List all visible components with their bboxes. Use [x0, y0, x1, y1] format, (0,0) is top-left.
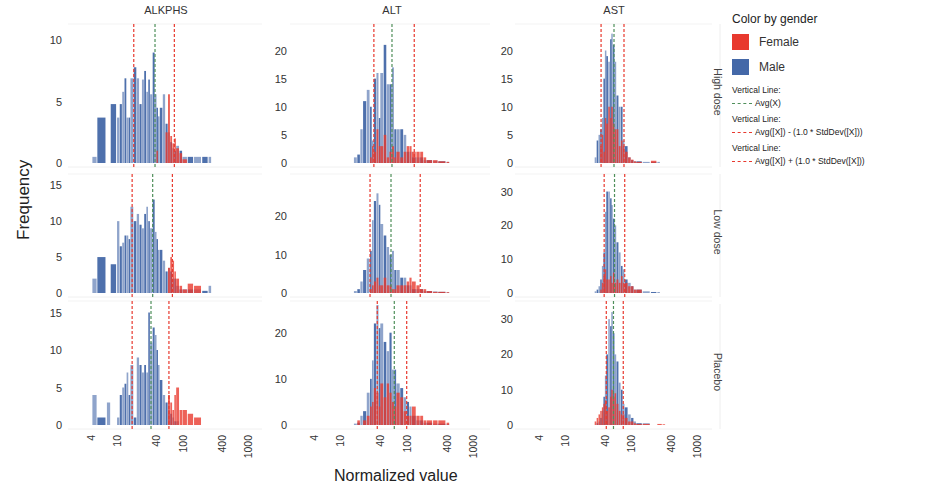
legend-label-male: Male: [759, 60, 785, 74]
refline-avg[interactable]: Avg(X): [732, 98, 932, 108]
x-tick-label: 4: [308, 435, 320, 441]
refline-plus-title: Vertical Line:: [732, 143, 932, 153]
x-tick-label: 40: [150, 435, 162, 447]
svg-text:5: 5: [56, 251, 62, 263]
svg-text:10: 10: [501, 101, 513, 113]
refline-avg-title: Vertical Line:: [732, 85, 932, 95]
dash-line-icon: [732, 103, 752, 104]
svg-text:5: 5: [56, 96, 62, 108]
legend: Color by gender Female Male Vertical Lin…: [732, 12, 932, 166]
svg-text:0: 0: [507, 157, 513, 169]
column-header: ALKPHS: [144, 4, 187, 16]
svg-text:0: 0: [281, 157, 287, 169]
svg-text:15: 15: [50, 307, 62, 319]
svg-text:15: 15: [501, 73, 513, 85]
refline-minus-sd[interactable]: Avg([X]) - (1.0 * StdDev([X])): [732, 127, 932, 137]
x-tick-label: 10: [334, 435, 346, 447]
svg-text:20: 20: [275, 45, 287, 57]
panel-ast-placebo: 0102030: [501, 301, 712, 431]
svg-text:10: 10: [50, 344, 62, 356]
refline-plus-expr: Avg([X]) + (1.0 * StdDev([X])): [755, 156, 865, 166]
svg-text:0: 0: [507, 287, 513, 299]
panel-alt-high-dose: 05101520: [275, 24, 490, 169]
x-tick-label: 1000: [467, 435, 479, 459]
x-tick-label: 400: [441, 435, 453, 453]
panel-ast-high-dose: 05101520: [501, 24, 712, 169]
column-header: ALT: [382, 4, 402, 16]
svg-text:20: 20: [275, 210, 287, 222]
panel-alt-placebo: 01020: [275, 301, 490, 431]
x-tick-label: 4: [85, 435, 97, 441]
x-tick-label: 400: [665, 435, 677, 453]
svg-text:20: 20: [275, 327, 287, 339]
svg-text:5: 5: [281, 129, 287, 141]
svg-text:10: 10: [501, 253, 513, 265]
svg-text:0: 0: [56, 157, 62, 169]
x-tick-label: 10: [559, 435, 571, 447]
refline-plus-sd[interactable]: Avg([X]) + (1.0 * StdDev([X])): [732, 156, 932, 166]
row-header: Placebo: [712, 353, 724, 391]
male-swatch: [732, 59, 749, 75]
x-tick-label: 1000: [242, 435, 254, 459]
legend-item-female[interactable]: Female: [732, 29, 932, 54]
svg-text:10: 10: [501, 384, 513, 396]
svg-text:10: 10: [275, 373, 287, 385]
female-swatch: [732, 34, 749, 50]
svg-text:0: 0: [56, 419, 62, 431]
refline-minus-title: Vertical Line:: [732, 114, 932, 124]
svg-text:0: 0: [281, 419, 287, 431]
svg-text:0: 0: [507, 419, 513, 431]
y-axis-label: Frequency: [14, 160, 34, 240]
svg-text:10: 10: [50, 215, 62, 227]
column-header: AST: [603, 4, 625, 16]
panel-ast-low-dose: 0102030: [501, 174, 712, 299]
svg-text:10: 10: [275, 249, 287, 261]
x-tick-label: 40: [599, 435, 611, 447]
svg-text:0: 0: [281, 287, 287, 299]
x-tick-label: 1000: [691, 435, 703, 459]
refline-minus-expr: Avg([X]) - (1.0 * StdDev([X])): [755, 127, 863, 137]
x-tick-label: 400: [216, 435, 228, 453]
x-tick-label: 100: [177, 435, 189, 453]
x-tick-label: 4: [533, 435, 545, 441]
dash-line-icon: [732, 161, 752, 162]
panel-alt-low-dose: 01020: [275, 174, 490, 299]
x-tick-label: 10: [111, 435, 123, 447]
panel-alkphs-high-dose: 0510: [50, 24, 262, 169]
svg-text:0: 0: [56, 287, 62, 299]
x-tick-label: 100: [401, 435, 413, 453]
svg-text:15: 15: [50, 179, 62, 191]
svg-text:5: 5: [507, 129, 513, 141]
svg-text:10: 10: [50, 34, 62, 46]
dash-line-icon: [732, 132, 752, 133]
svg-text:20: 20: [501, 219, 513, 231]
svg-text:15: 15: [275, 73, 287, 85]
legend-item-male[interactable]: Male: [732, 54, 932, 79]
row-header: Low dose: [712, 210, 724, 255]
legend-label-female: Female: [759, 35, 799, 49]
x-tick-label: 100: [625, 435, 637, 453]
svg-text:20: 20: [501, 348, 513, 360]
svg-text:10: 10: [275, 101, 287, 113]
panel-alkphs-low-dose: 051015: [50, 174, 262, 299]
row-header: High dose: [712, 68, 724, 115]
panel-alkphs-placebo: 051015: [50, 301, 262, 431]
refline-avg-expr: Avg(X): [755, 98, 781, 108]
svg-text:30: 30: [501, 186, 513, 198]
legend-title[interactable]: Color by gender: [732, 12, 932, 26]
x-tick-label: 40: [374, 435, 386, 447]
svg-text:30: 30: [501, 313, 513, 325]
x-axis-label: Normalized value: [334, 467, 458, 485]
svg-text:20: 20: [501, 45, 513, 57]
svg-text:5: 5: [56, 382, 62, 394]
